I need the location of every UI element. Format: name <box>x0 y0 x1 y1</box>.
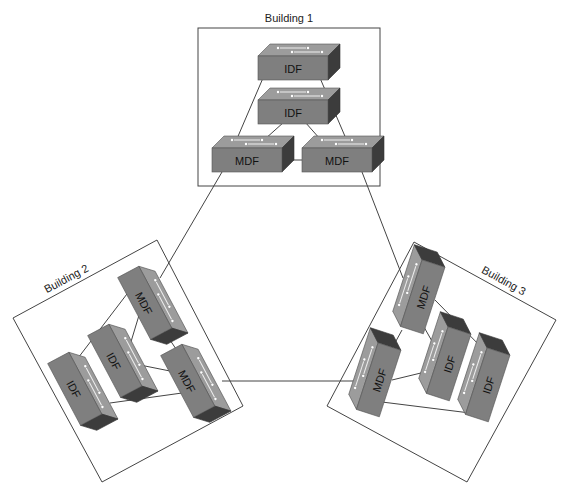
switch-b1-idf1[interactable]: IDF <box>258 44 340 80</box>
switch-b1-idf2[interactable]: IDF <box>258 88 340 124</box>
switch-label: IDF <box>284 107 302 119</box>
switch-b2-mdf2[interactable]: MDF <box>161 339 231 428</box>
building-1: Building 1 IDF IDF MDF MDF <box>198 12 384 186</box>
building-3: Building 3 MDF MDF IDF IDF <box>327 242 556 482</box>
network-diagram: Building 1 IDF IDF MDF MDF Building 2 <box>0 0 570 494</box>
switch-label: IDF <box>284 63 302 75</box>
building-1-label: Building 1 <box>265 12 313 24</box>
switch-b1-mdf2[interactable]: MDF <box>302 136 384 172</box>
switch-label: MDF <box>325 155 349 167</box>
building-3-label: Building 3 <box>480 264 528 298</box>
switch-b1-mdf1[interactable]: MDF <box>212 136 294 172</box>
switch-label: MDF <box>235 155 259 167</box>
building-2-label: Building 2 <box>42 262 90 295</box>
building-2: Building 2 MDF IDF IDF MDF <box>13 240 243 482</box>
